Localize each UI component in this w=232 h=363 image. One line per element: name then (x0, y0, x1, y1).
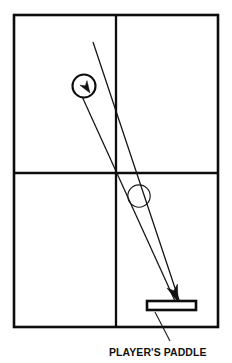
diagram-canvas: PLAYER'S PADDLE (0, 0, 232, 363)
pong-court-diagram: PLAYER'S PADDLE (0, 0, 232, 363)
players-paddle[interactable] (147, 301, 196, 310)
paddle-caption-label: PLAYER'S PADDLE (109, 346, 207, 358)
